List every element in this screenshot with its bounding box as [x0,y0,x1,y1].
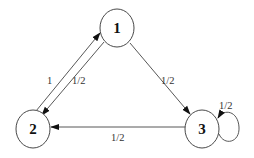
node-2-label: 2 [29,121,37,137]
edge-label-1-to-2: 1/2 [72,75,85,86]
state-diagram: 1 1/2 1/2 1/2 1/2 1 2 3 [0,0,254,158]
node-3-label: 3 [198,121,206,137]
edge-1-to-3 [130,43,190,114]
edge-2-to-1 [36,33,100,111]
edge-label-1-to-3: 1/2 [161,75,174,86]
node-1: 1 [100,9,134,47]
node-1-label: 1 [113,20,121,36]
edge-3-self-loop [218,112,239,141]
edge-label-3-to-2: 1/2 [111,132,124,143]
edge-label-2-to-1: 1 [47,75,52,86]
node-2: 2 [16,110,50,148]
edge-label-3-self: 1/2 [219,100,232,111]
node-3: 3 [185,110,219,148]
